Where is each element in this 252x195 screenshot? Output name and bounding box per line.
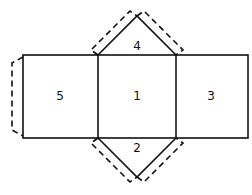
glue-flap-left — [12, 57, 23, 136]
face-1-label: 1 — [133, 89, 141, 103]
glue-flap-top-left — [91, 11, 137, 55]
face-3-label: 3 — [207, 89, 215, 103]
glue-flap-top-right — [137, 11, 183, 55]
glue-flap-bottom-left — [91, 138, 137, 182]
prism-net-diagram: 5 1 3 4 2 — [0, 0, 252, 195]
face-5-label: 5 — [56, 89, 64, 103]
face-2-label: 2 — [133, 141, 141, 155]
face-4-label: 4 — [133, 39, 141, 53]
glue-flap-bottom-right — [137, 138, 183, 182]
